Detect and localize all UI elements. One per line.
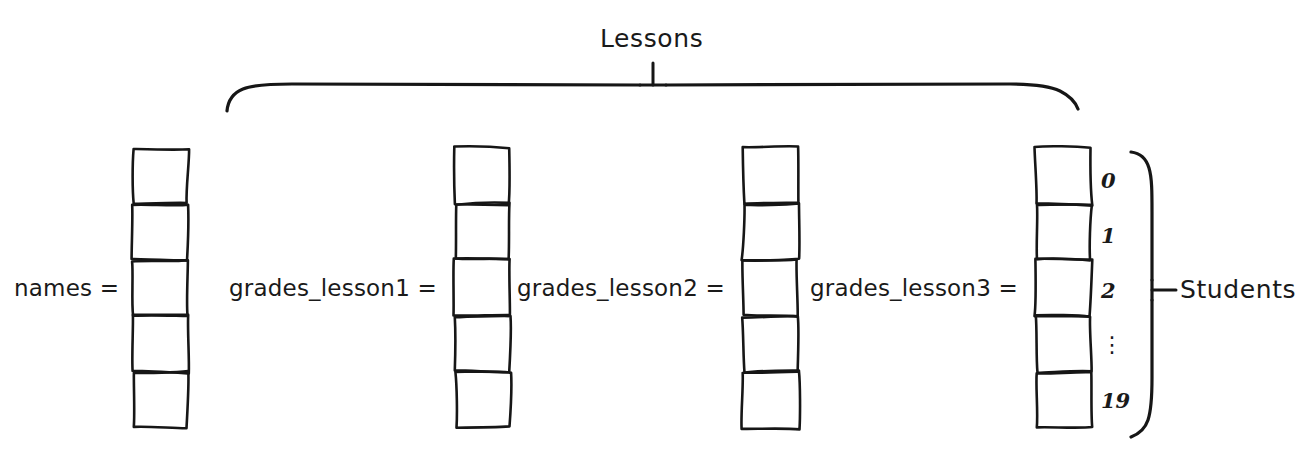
array-cell (1035, 146, 1093, 205)
index-label-19: 19 (1101, 390, 1130, 411)
array-cell (132, 205, 189, 261)
variable-label-names: names = (14, 277, 119, 300)
array-cell (455, 372, 511, 428)
handdrawn-ink-overlay (0, 0, 1316, 451)
array-cell (743, 146, 799, 204)
array-cell (742, 203, 800, 260)
array-cell (1035, 259, 1093, 317)
diagram-canvas: Lessons Students names =grades_lesson1 =… (0, 0, 1316, 451)
index-label-2: 2 (1101, 280, 1116, 301)
array-cell (456, 203, 510, 259)
array-cell (132, 315, 189, 374)
variable-label-grades_lesson3: grades_lesson3 = (810, 277, 1018, 300)
array-column-names (132, 149, 190, 428)
array-cell (1036, 315, 1092, 373)
lessons-group-label: Lessons (600, 26, 703, 51)
array-cell (454, 146, 509, 205)
variable-label-grades_lesson1: grades_lesson1 = (229, 277, 437, 300)
array-cell (133, 149, 189, 204)
array-cell (134, 371, 189, 428)
array-cell (742, 316, 798, 373)
students-group-label: Students (1180, 277, 1296, 302)
array-cell (455, 316, 511, 372)
array-column-grades_lesson2 (741, 146, 800, 429)
array-column-grades_lesson3 (1035, 146, 1093, 427)
array-cell (1037, 205, 1092, 261)
array-cell (742, 260, 797, 317)
lessons-brace (227, 84, 1078, 111)
index-label-ellipsis: ⋮ (1101, 334, 1123, 356)
index-label-1: 1 (1101, 225, 1116, 246)
variable-label-grades_lesson2: grades_lesson2 = (517, 277, 725, 300)
array-cell (132, 260, 188, 316)
array-column-grades_lesson1 (453, 146, 511, 427)
array-cell (741, 370, 800, 429)
array-cell (453, 258, 509, 316)
braces-group (227, 63, 1176, 437)
index-label-0: 0 (1101, 170, 1116, 191)
array-cell (1036, 372, 1092, 428)
students-brace (1131, 152, 1152, 437)
